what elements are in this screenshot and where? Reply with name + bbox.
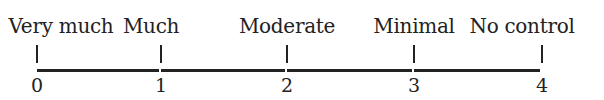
scale-tick-3 bbox=[413, 45, 415, 63]
scale-number-2: 2 bbox=[281, 74, 293, 96]
scale-label-0: Very much bbox=[9, 14, 114, 38]
scale-label-1: Much bbox=[123, 14, 179, 38]
scale-tick-2 bbox=[286, 45, 288, 63]
scale-label-4: No control bbox=[469, 14, 574, 38]
scale-tick-0 bbox=[36, 45, 38, 63]
scale-number-3: 3 bbox=[408, 74, 420, 96]
scale-number-4: 4 bbox=[536, 74, 548, 96]
scale-tick-1 bbox=[160, 45, 162, 63]
scale-segment bbox=[161, 69, 285, 72]
scale-segment bbox=[287, 69, 412, 72]
scale-label-2: Moderate bbox=[239, 14, 335, 38]
scale-segment bbox=[414, 69, 540, 72]
scale-label-3: Minimal bbox=[373, 14, 454, 38]
scale-tick-4 bbox=[541, 45, 543, 63]
scale-number-0: 0 bbox=[31, 74, 43, 96]
scale-segment bbox=[37, 69, 159, 72]
scale-number-1: 1 bbox=[155, 74, 167, 96]
